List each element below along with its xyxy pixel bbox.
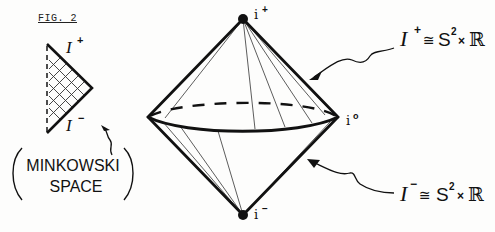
minkowski-caption: MINKOWSKI SPACE [13, 148, 133, 200]
scri-minus-label: I [65, 116, 73, 135]
scri-minus-sup: − [78, 112, 84, 124]
scri-minus-arrow [307, 159, 394, 193]
i-plus-sup: + [262, 4, 268, 15]
i-plus-label: i [254, 7, 258, 22]
i-zero-label: i [346, 113, 350, 128]
compactified-cone-diagram: i + i o i − [148, 4, 359, 222]
annot-bottom-rel: ≅ [419, 187, 431, 203]
i-minus-label: i [254, 207, 258, 222]
minkowski-pointer-arrow [101, 125, 112, 155]
annot-top-rel: ≅ [423, 32, 435, 48]
annot-bottom-space-sup: 2 [449, 181, 455, 192]
annot-top-reals: ℝ [469, 28, 485, 50]
equator-back-dashed [150, 103, 336, 116]
cone-outline [148, 19, 338, 215]
i-zero-sup: o [353, 111, 359, 121]
annot-top-space: S [438, 29, 451, 50]
annot-top-sup: + [414, 23, 421, 37]
paren-close [124, 148, 133, 200]
i-minus-point [238, 210, 248, 220]
paren-open [13, 148, 22, 200]
diagram-canvas: FIG. 2 I + I − [0, 0, 495, 232]
scri-plus-annotation: I + ≅ S 2 × ℝ [399, 23, 485, 51]
coordinate-grid [49, 58, 84, 119]
caption-minkowski: MINKOWSKI [26, 157, 119, 174]
scri-plus-sup: + [77, 34, 83, 46]
diagram-svg: I + I − MINKOWSKI SPACE [0, 0, 495, 232]
annot-bottom-scri: I [399, 181, 409, 206]
caption-space: SPACE [49, 178, 102, 195]
annot-bottom-space: S [436, 184, 449, 205]
scri-plus-label: I [65, 38, 73, 57]
annot-bottom-reals: ℝ [468, 183, 484, 205]
i-minus-sup: − [262, 203, 268, 214]
scri-plus-arrow [309, 48, 394, 80]
annot-bottom-times: × [457, 189, 464, 203]
i-plus-point [238, 14, 248, 24]
annot-top-space-sup: 2 [451, 26, 457, 37]
lower-cone-generators [163, 119, 336, 215]
minkowski-penrose-diagram: I + I − [47, 34, 92, 135]
annot-bottom-sup: − [410, 177, 417, 191]
scri-minus-annotation: I − ≅ S 2 × ℝ [399, 177, 484, 206]
annot-top-scri: I [399, 26, 409, 51]
annot-top-times: × [458, 34, 465, 48]
